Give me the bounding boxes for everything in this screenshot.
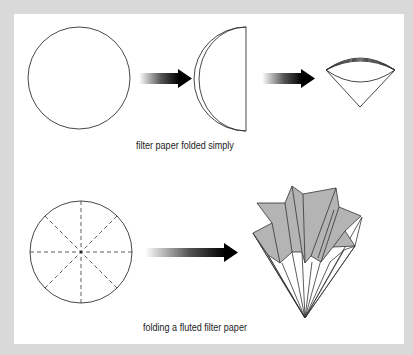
arrow-1 bbox=[139, 69, 192, 88]
fluted-cone bbox=[253, 186, 362, 318]
center-point bbox=[80, 251, 83, 254]
half-circle-fold bbox=[194, 27, 246, 131]
diagram-canvas bbox=[0, 0, 413, 355]
caption-simple-fold: filter paper folded simply bbox=[136, 139, 234, 151]
row-simple-fold bbox=[28, 27, 395, 131]
cone-fold bbox=[326, 58, 395, 107]
row-fluted-fold bbox=[30, 186, 362, 318]
filter-paper-circle bbox=[28, 27, 130, 129]
filter-paper-circle-with-fold-lines bbox=[30, 201, 132, 303]
arrow-2 bbox=[262, 69, 315, 88]
caption-fluted-fold: folding a fluted filter paper bbox=[143, 321, 247, 333]
arrow-3 bbox=[145, 243, 238, 262]
